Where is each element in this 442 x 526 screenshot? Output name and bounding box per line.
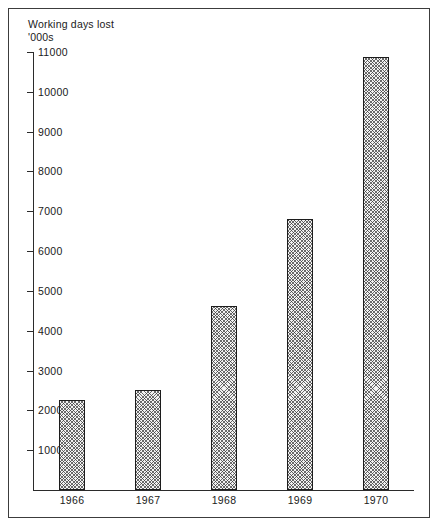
axis-unit-label: '000s (28, 31, 114, 44)
page-title: Working days lost (28, 18, 114, 31)
y-tick-label: 5000 (38, 285, 63, 297)
x-tick-label-1966: 1966 (60, 494, 85, 506)
y-tick-mark (27, 331, 34, 332)
y-tick-label: 4000 (38, 325, 63, 337)
bar-1967 (135, 390, 161, 490)
chart-title-block: Working days lost '000s (28, 18, 114, 44)
y-tick-label: 11000 (38, 46, 68, 58)
y-tick-mark (27, 410, 34, 411)
x-tick-label-1970: 1970 (364, 494, 389, 506)
y-tick-label: 7000 (38, 205, 63, 217)
y-tick-mark (27, 211, 34, 212)
y-tick-mark (27, 291, 34, 292)
y-axis-line (33, 52, 34, 490)
bar-1969 (287, 219, 313, 490)
y-tick-mark (27, 371, 34, 372)
y-tick-mark (27, 52, 34, 53)
y-tick-mark (27, 171, 34, 172)
y-tick-label: 8000 (38, 165, 63, 177)
x-tick-label-1969: 1969 (288, 494, 313, 506)
y-tick-mark (27, 132, 34, 133)
plot-area: Working days lost '000s 1000200030004000… (0, 0, 442, 526)
y-tick-label: 10000 (38, 86, 69, 98)
bar-1966 (59, 400, 85, 490)
y-tick-mark (27, 92, 34, 93)
y-tick-label: 3000 (38, 365, 63, 377)
x-tick-label-1968: 1968 (212, 494, 237, 506)
x-tick-label-1967: 1967 (136, 494, 161, 506)
bar-1970 (363, 57, 389, 490)
y-tick-mark (27, 251, 34, 252)
chart-page: Working days lost '000s 1000200030004000… (0, 0, 442, 526)
x-axis-line (33, 490, 414, 491)
y-tick-label: 6000 (38, 245, 63, 257)
y-tick-label: 9000 (38, 126, 63, 138)
y-tick-mark (27, 450, 34, 451)
bar-1968 (211, 306, 237, 490)
